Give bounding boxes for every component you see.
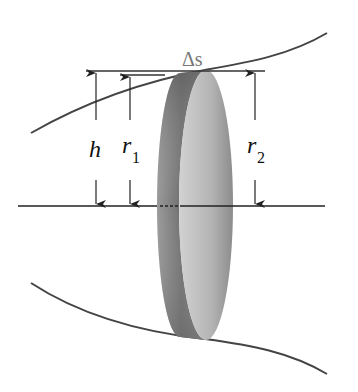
disk-front-face	[179, 70, 233, 340]
r2-subscript: 2	[257, 149, 265, 166]
figure: Δs h r 1 r 2	[0, 0, 358, 392]
delta-s-label: Δs	[182, 48, 203, 70]
h-label: h	[89, 136, 101, 162]
r1-label: r	[122, 132, 132, 158]
r2-label: r	[247, 132, 257, 158]
diagram-svg: Δs h r 1 r 2	[0, 0, 358, 392]
r1-subscript: 1	[132, 149, 140, 166]
disk	[157, 70, 233, 340]
